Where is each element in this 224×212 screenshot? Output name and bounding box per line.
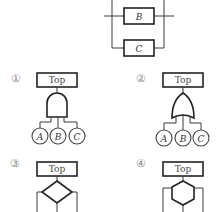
- connector: [64, 117, 77, 128]
- event-a-label: A: [36, 132, 44, 142]
- connector: [40, 117, 51, 128]
- event-b-label: B: [54, 132, 62, 142]
- option-3-number: ③: [10, 157, 20, 170]
- event-c-label: C: [74, 132, 81, 142]
- event-c-label: C: [198, 134, 205, 144]
- connector: [194, 188, 203, 212]
- option-1-number: ①: [11, 72, 21, 85]
- option-3-top-label: Top: [49, 164, 66, 174]
- reliability-block-diagram: B C: [104, 0, 174, 56]
- connector: [37, 192, 42, 212]
- option-3-diamond-tree[interactable]: ③ Top: [10, 157, 77, 212]
- connector: [163, 188, 172, 212]
- option-1-and-tree[interactable]: ① Top A B C: [11, 72, 85, 144]
- connector: [72, 192, 77, 212]
- fault-tree-question-figure: B C ① Top A B C ② Top A B C: [0, 0, 224, 212]
- option-2-or-tree[interactable]: ② Top A B C: [136, 72, 209, 146]
- hexagon-gate-icon: [172, 181, 194, 205]
- option-4-top-label: Top: [175, 164, 192, 174]
- event-a-label: A: [160, 134, 168, 144]
- block-b-label: B: [135, 12, 143, 22]
- option-1-top-label: Top: [49, 75, 66, 85]
- and-gate-icon: [47, 93, 67, 117]
- option-2-top-label: Top: [175, 75, 192, 85]
- connector: [190, 116, 201, 130]
- event-b-label: B: [179, 134, 187, 144]
- option-2-number: ②: [136, 72, 146, 85]
- diamond-gate-icon: [42, 181, 72, 203]
- connector: [164, 116, 176, 130]
- option-4-hexagon-tree[interactable]: ④ Top: [136, 157, 203, 212]
- option-4-number: ④: [136, 157, 146, 170]
- block-c-label: C: [136, 44, 143, 54]
